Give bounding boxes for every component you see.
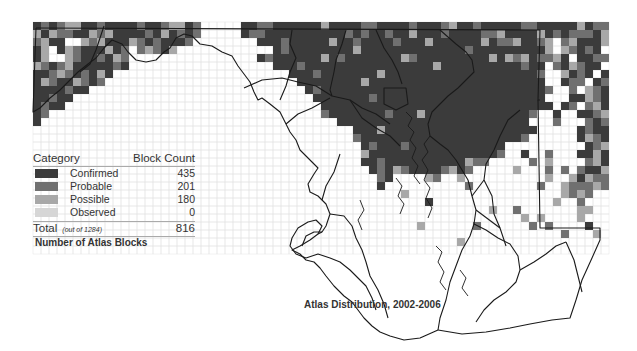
atlas-block: [401, 54, 409, 62]
atlas-block: [537, 38, 545, 46]
atlas-block: [497, 22, 505, 30]
atlas-block: [313, 94, 321, 102]
legend-item-possible: Possible 180: [33, 193, 195, 206]
atlas-block: [305, 30, 313, 38]
atlas-block: [489, 30, 497, 38]
atlas-block: [577, 190, 585, 198]
atlas-block: [33, 94, 41, 102]
atlas-block: [65, 30, 73, 38]
atlas-block: [553, 22, 561, 30]
atlas-block: [425, 94, 433, 102]
atlas-block: [529, 86, 537, 94]
atlas-block: [393, 30, 401, 38]
atlas-block: [57, 30, 65, 38]
atlas-block: [601, 86, 609, 94]
atlas-block: [513, 78, 521, 86]
atlas-block: [465, 158, 473, 166]
atlas-block: [385, 158, 393, 166]
atlas-block: [337, 86, 345, 94]
atlas-block: [281, 54, 289, 62]
atlas-block: [129, 30, 137, 38]
atlas-block: [417, 62, 425, 70]
atlas-block: [401, 78, 409, 86]
atlas-block: [65, 86, 73, 94]
atlas-block: [409, 78, 417, 86]
atlas-block: [465, 166, 473, 174]
atlas-block: [121, 62, 129, 70]
atlas-block: [409, 126, 417, 134]
atlas-block: [441, 110, 449, 118]
atlas-block: [505, 38, 513, 46]
atlas-block: [41, 62, 49, 70]
atlas-block: [449, 70, 457, 78]
atlas-block: [409, 86, 417, 94]
atlas-block: [353, 86, 361, 94]
atlas-block: [385, 86, 393, 94]
atlas-block: [369, 62, 377, 70]
atlas-block: [585, 126, 593, 134]
atlas-block: [489, 110, 497, 118]
atlas-block: [433, 78, 441, 86]
atlas-block: [257, 54, 265, 62]
atlas-block: [297, 46, 305, 54]
atlas-block: [425, 70, 433, 78]
atlas-block: [345, 38, 353, 46]
atlas-block: [577, 46, 585, 54]
atlas-block: [361, 30, 369, 38]
atlas-block: [353, 134, 361, 142]
atlas-block: [361, 94, 369, 102]
atlas-block: [105, 30, 113, 38]
atlas-block: [569, 22, 577, 30]
atlas-block: [321, 62, 329, 70]
atlas-block: [561, 22, 569, 30]
atlas-block: [305, 86, 313, 94]
atlas-block: [585, 70, 593, 78]
atlas-block: [457, 126, 465, 134]
atlas-block: [601, 166, 609, 174]
atlas-block: [593, 158, 601, 166]
atlas-block: [465, 150, 473, 158]
atlas-block: [601, 158, 609, 166]
atlas-block: [513, 62, 521, 70]
atlas-block: [409, 94, 417, 102]
atlas-block: [73, 46, 81, 54]
atlas-block: [561, 30, 569, 38]
atlas-block: [529, 38, 537, 46]
atlas-block: [593, 94, 601, 102]
legend-label: Observed: [70, 206, 189, 219]
atlas-block: [441, 118, 449, 126]
legend-item-probable: Probable 201: [33, 180, 195, 193]
atlas-block: [553, 118, 561, 126]
atlas-block: [489, 102, 497, 110]
atlas-block: [481, 94, 489, 102]
atlas-block: [49, 38, 57, 46]
atlas-block: [361, 86, 369, 94]
atlas-block: [321, 70, 329, 78]
atlas-block: [465, 126, 473, 134]
atlas-block: [593, 86, 601, 94]
atlas-block: [97, 46, 105, 54]
atlas-block: [313, 38, 321, 46]
atlas-block: [585, 142, 593, 150]
atlas-block: [521, 22, 529, 30]
atlas-block: [409, 166, 417, 174]
atlas-block: [425, 78, 433, 86]
atlas-block: [33, 46, 41, 54]
atlas-block: [513, 110, 521, 118]
atlas-block: [377, 142, 385, 150]
atlas-block: [129, 38, 137, 46]
atlas-block: [377, 150, 385, 158]
atlas-block: [33, 38, 41, 46]
atlas-block: [417, 142, 425, 150]
atlas-block: [465, 118, 473, 126]
atlas-block: [441, 102, 449, 110]
atlas-block: [457, 54, 465, 62]
atlas-block: [385, 30, 393, 38]
atlas-block: [57, 62, 65, 70]
atlas-block: [489, 54, 497, 62]
atlas-block: [513, 30, 521, 38]
atlas-block: [73, 62, 81, 70]
atlas-block: [441, 150, 449, 158]
atlas-block: [377, 22, 385, 30]
atlas-block: [577, 126, 585, 134]
